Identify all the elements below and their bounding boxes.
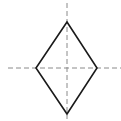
rhombus-symmetry-diagram xyxy=(0,0,121,121)
diagram-canvas xyxy=(0,0,121,121)
